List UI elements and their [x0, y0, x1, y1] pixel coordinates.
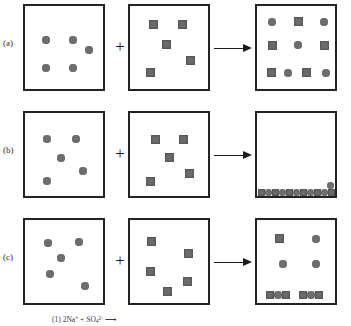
arrow-head: [243, 44, 252, 52]
cation-particle: [72, 135, 80, 143]
cation-particle: [322, 69, 330, 77]
anion-particle: [186, 56, 195, 65]
arrow-head: [243, 151, 252, 159]
arrow-shaft: [214, 262, 245, 263]
cation-particle: [46, 270, 54, 278]
precipitate-cation-stacked: [327, 182, 334, 189]
reactant-box-c-2: [128, 218, 210, 305]
reaction-arrow: [214, 258, 254, 268]
anion-particle: [302, 68, 311, 77]
anion-particle: [151, 135, 160, 144]
precipitate-cluster-left: [266, 291, 290, 299]
caption-species-2-charge: 2-: [99, 315, 104, 321]
caption-species-2: SO: [86, 315, 96, 324]
anion-particle: [268, 41, 277, 50]
precipitate-anion: [272, 189, 279, 196]
precipitate-anion: [258, 189, 265, 196]
precipitate-cation: [307, 189, 314, 196]
cation-particle: [43, 177, 51, 185]
cation-particle: [44, 239, 52, 247]
anion-particle: [183, 277, 192, 286]
diagram-row: (c)+: [0, 214, 351, 310]
cation-particle: [42, 36, 50, 44]
cation-particle: [69, 36, 77, 44]
anion-particle: [275, 234, 284, 243]
product-box-a-3: [255, 4, 337, 91]
figure-caption: (1) 2Na+ + SO42- ⟶: [52, 313, 342, 326]
anion-particle: [179, 135, 188, 144]
precipitate-cation: [321, 189, 328, 196]
cation-particle: [43, 135, 51, 143]
precipitate-anion: [328, 189, 335, 196]
plus-operator: +: [112, 145, 128, 163]
reactant-box-b-1: [23, 111, 105, 198]
anion-particle: [146, 267, 155, 276]
anion-particle: [294, 17, 303, 26]
anion-particle: [267, 68, 276, 77]
cation-particle: [57, 154, 65, 162]
precipitate-anion: [315, 291, 323, 299]
precipitate-cation: [265, 189, 272, 196]
reactant-box-b-2: [128, 111, 210, 198]
anion-particle: [149, 20, 158, 29]
precipitate-anion: [286, 189, 293, 196]
reaction-arrow: [214, 151, 254, 161]
caption-arrow: ⟶: [105, 315, 116, 324]
precipitate-cation: [274, 291, 282, 299]
reactant-box-a-2: [128, 4, 210, 91]
reactant-box-a-1: [23, 4, 105, 91]
precipitate-anion: [266, 291, 274, 299]
precipitate-cation: [279, 189, 286, 196]
anion-particle: [146, 177, 155, 186]
precipitate-anion: [314, 189, 321, 196]
cation-particle: [320, 18, 328, 26]
precipitate-cation: [293, 189, 300, 196]
arrow-head: [243, 258, 252, 266]
anion-particle: [162, 40, 171, 49]
cation-particle: [81, 282, 89, 290]
plus-operator: +: [112, 38, 128, 56]
anion-particle: [147, 237, 156, 246]
product-box-b-3: [255, 111, 337, 198]
product-box-c-3: [255, 218, 337, 305]
anion-particle: [165, 153, 174, 162]
precipitate-bed: [257, 184, 335, 196]
reaction-arrow: [214, 44, 254, 54]
arrow-shaft: [214, 155, 245, 156]
row-label: (c): [3, 252, 13, 262]
anion-particle: [184, 249, 193, 258]
cation-particle: [42, 64, 50, 72]
diagram-row: (a)+: [0, 0, 351, 96]
anion-particle: [185, 169, 194, 178]
precipitate-anion: [300, 189, 307, 196]
caption-species-1: 2Na: [63, 315, 76, 324]
row-label: (a): [3, 38, 13, 48]
caption-species-1-charge: +: [75, 315, 78, 321]
cation-particle: [79, 167, 87, 175]
arrow-shaft: [214, 48, 245, 49]
precipitate-anion: [299, 291, 307, 299]
caption-item-number: (1): [52, 315, 61, 324]
anion-particle: [163, 287, 172, 296]
cation-particle: [75, 238, 83, 246]
cation-particle: [268, 18, 276, 26]
cation-particle: [284, 69, 292, 77]
anion-particle: [146, 68, 155, 77]
cation-particle: [85, 46, 93, 54]
anion-particle: [178, 20, 187, 29]
particle-diagram-figure: (a)+(b)+(c)+: [0, 0, 351, 326]
row-label: (b): [3, 145, 14, 155]
cation-particle: [312, 260, 320, 268]
diagram-row: (b)+: [0, 107, 351, 203]
cation-particle: [312, 235, 320, 243]
anion-particle: [320, 41, 329, 50]
reactant-box-c-1: [23, 218, 105, 305]
cation-particle: [279, 260, 287, 268]
precipitate-cluster-right: [299, 291, 323, 299]
precipitate-anion: [282, 291, 290, 299]
cation-particle: [57, 254, 65, 262]
cation-particle: [69, 64, 77, 72]
precipitate-cation: [307, 291, 315, 299]
cation-particle: [294, 41, 302, 49]
plus-operator: +: [112, 252, 128, 270]
